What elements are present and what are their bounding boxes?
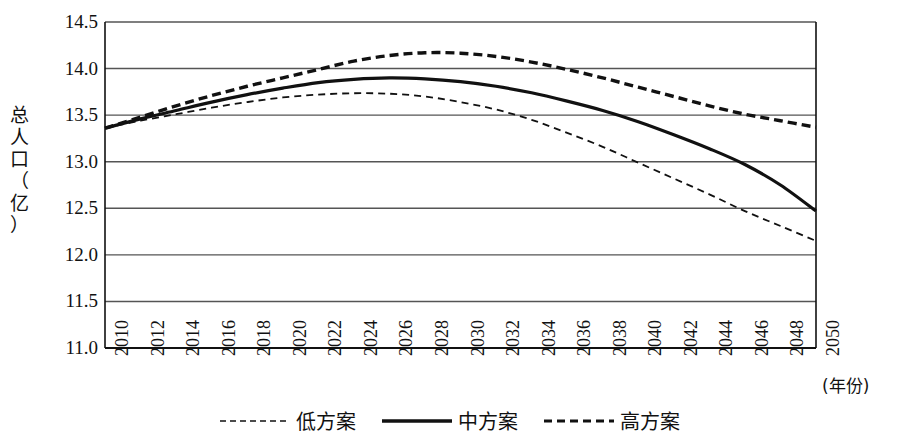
x-axis-tick-label: 2042 bbox=[681, 320, 702, 356]
legend-swatch-fine-dashed bbox=[220, 415, 290, 427]
legend-item-high: 高方案 bbox=[544, 406, 680, 435]
x-axis-tick-label: 2034 bbox=[539, 320, 560, 356]
x-axis-tick-label: 2010 bbox=[112, 320, 133, 356]
population-projection-chart: 总 人 口 （ 亿 ） 14.514.013.513.012.512.011.5… bbox=[0, 0, 900, 443]
x-axis-tick-label: 2018 bbox=[254, 320, 275, 356]
x-axis-tick-label: 2040 bbox=[645, 320, 666, 356]
x-axis-tick-label: 2012 bbox=[148, 320, 169, 356]
legend-item-low: 低方案 bbox=[220, 406, 356, 435]
x-axis-tick-label: 2038 bbox=[610, 320, 631, 356]
legend-swatch-bold-dashed bbox=[544, 415, 614, 427]
x-axis-title: (年份) bbox=[822, 372, 869, 397]
x-axis-tick-label: 2030 bbox=[468, 320, 489, 356]
x-axis-tick-label: 2048 bbox=[787, 320, 808, 356]
x-axis-tick-label: 2032 bbox=[503, 320, 524, 356]
legend-swatch-solid bbox=[382, 415, 452, 427]
legend-label-high: 高方案 bbox=[620, 406, 680, 435]
x-axis-tick-label: 2036 bbox=[574, 320, 595, 356]
x-axis-tick-label: 2026 bbox=[396, 320, 417, 356]
plot-area bbox=[0, 0, 900, 443]
x-axis-tick-label: 2022 bbox=[325, 320, 346, 356]
x-axis-tick-label: 2014 bbox=[183, 320, 204, 356]
x-axis-tick-label: 2050 bbox=[823, 320, 844, 356]
legend-label-low: 低方案 bbox=[296, 406, 356, 435]
chart-legend: 低方案 中方案 高方案 bbox=[0, 406, 900, 435]
series-line-bold-dashed bbox=[105, 53, 816, 129]
x-axis-tick-label: 2020 bbox=[290, 320, 311, 356]
legend-label-medium: 中方案 bbox=[458, 406, 518, 435]
x-axis-tick-label: 2044 bbox=[716, 320, 737, 356]
legend-item-medium: 中方案 bbox=[382, 406, 518, 435]
x-axis-tick-label: 2024 bbox=[361, 320, 382, 356]
x-axis-tick-label: 2016 bbox=[219, 320, 240, 356]
series-line-solid bbox=[105, 78, 816, 211]
x-axis-tick-label: 2046 bbox=[752, 320, 773, 356]
x-axis-tick-label: 2028 bbox=[432, 320, 453, 356]
